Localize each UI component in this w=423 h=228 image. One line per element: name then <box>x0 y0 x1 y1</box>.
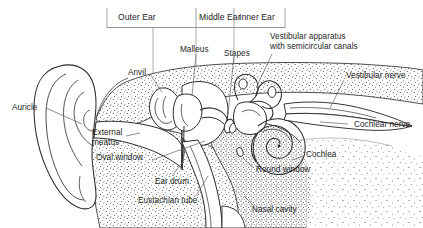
label-vestibular-apparatus: Vestibular apparatus with semicircular c… <box>270 32 358 52</box>
label-anvil: Anvil <box>128 68 146 78</box>
section-label-inner-ear: Inner Ear <box>239 12 275 22</box>
label-oval-window: Oval window <box>96 153 143 163</box>
label-stapes: Stapes <box>224 49 250 59</box>
label-external-meatus: External meatus <box>92 128 122 148</box>
label-vestibular-nerve: Vestibular nerve <box>346 71 406 81</box>
section-label-middle-ear: Middle Ear <box>199 12 241 22</box>
auricle-pinna <box>34 65 96 209</box>
label-nasal-cavity: Nasal cavity <box>252 205 297 215</box>
inner-ear-bone-mass <box>206 121 423 228</box>
label-cochlea: Cochlea <box>306 150 336 160</box>
diagram-canvas <box>0 0 423 228</box>
section-label-outer-ear: Outer Ear <box>118 12 156 22</box>
label-eustachian-tube: Eustachian tube <box>138 196 197 206</box>
ear-anatomy-diagram: Outer Ear Middle Ear Inner Ear Auricle E… <box>0 0 423 228</box>
label-auricle: Auricle <box>12 103 37 113</box>
label-round-window: Round window <box>256 165 310 175</box>
label-cochlear-nerve: Cochlear nerve <box>354 120 410 130</box>
label-ear-drum: Ear drum <box>155 177 189 187</box>
label-malleus: Malleus <box>180 45 209 55</box>
